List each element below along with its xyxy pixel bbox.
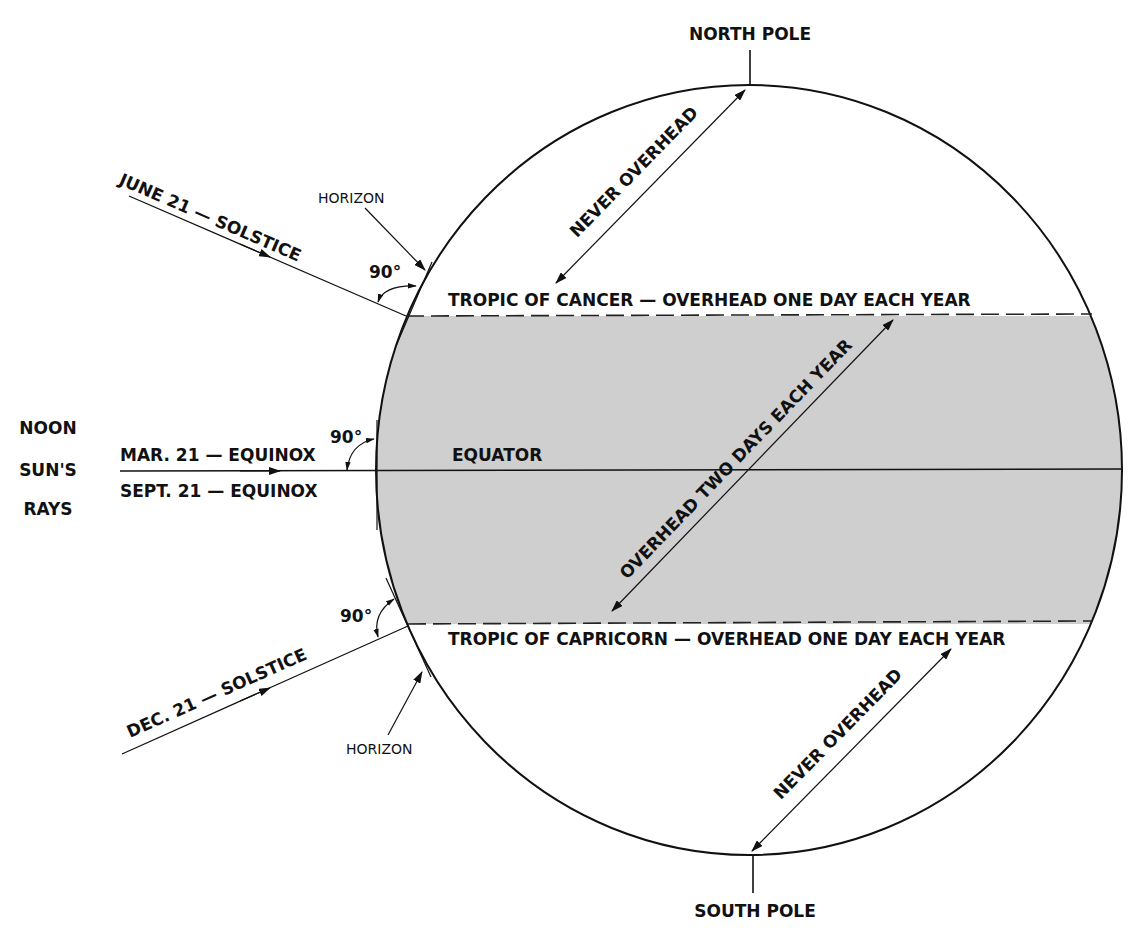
south-never-overhead-label: NEVER OVERHEAD bbox=[769, 665, 906, 804]
horizon-label-bottom: HORIZON bbox=[346, 741, 413, 757]
december-right-angle-arc bbox=[377, 599, 394, 637]
june-angle-label: 90° bbox=[369, 262, 401, 282]
equator-label: EQUATOR bbox=[452, 445, 542, 465]
horizon-bottom-pointer bbox=[388, 672, 422, 735]
noon-label: NOON bbox=[19, 418, 76, 438]
rays-label: RAYS bbox=[23, 499, 72, 519]
suns-label: SUN'S bbox=[19, 460, 77, 480]
june-right-angle-arc bbox=[378, 286, 416, 302]
horizon-label-top: HORIZON bbox=[318, 190, 385, 206]
equinox-angle-label: 90° bbox=[330, 427, 362, 447]
horizon-top-pointer bbox=[365, 208, 425, 270]
june-solstice-label: JUNE 21 — SOLSTICE bbox=[115, 169, 304, 266]
south-pole-label: SOUTH POLE bbox=[694, 901, 816, 921]
december-angle-label: 90° bbox=[340, 606, 372, 626]
north-never-overhead-arrow bbox=[556, 90, 745, 283]
sun-rays-diagram: NORTH POLE SOUTH POLE TROPIC OF CANCER —… bbox=[0, 0, 1140, 938]
tropic-of-cancer-label: TROPIC OF CANCER — OVERHEAD ONE DAY EACH… bbox=[448, 290, 971, 310]
tropic-of-cancer-line bbox=[406, 314, 1092, 316]
december-solstice-label: DEC. 21 — SOLSTICE bbox=[123, 644, 309, 742]
tropic-of-capricorn-label: TROPIC OF CAPRICORN — OVERHEAD ONE DAY E… bbox=[448, 629, 1005, 649]
north-pole-label: NORTH POLE bbox=[689, 24, 811, 44]
march-equinox-label: MAR. 21 — EQUINOX bbox=[120, 445, 316, 465]
september-equinox-label: SEPT. 21 — EQUINOX bbox=[120, 481, 318, 501]
south-never-overhead-arrow bbox=[752, 649, 951, 851]
